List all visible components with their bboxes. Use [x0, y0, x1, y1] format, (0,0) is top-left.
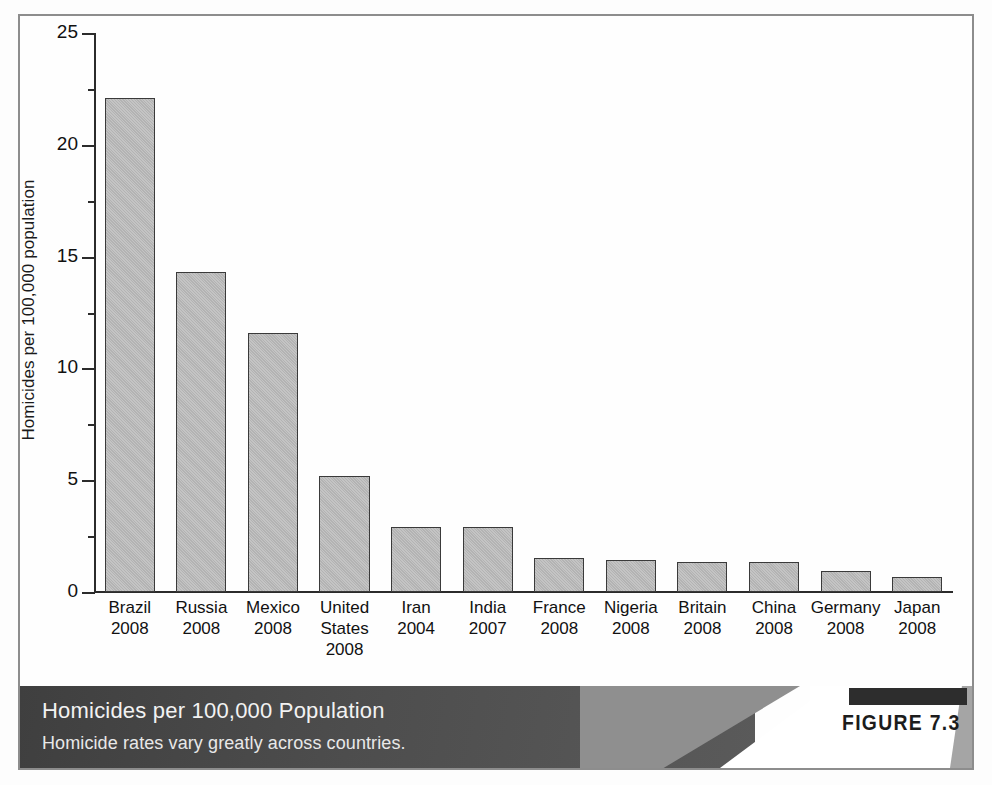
bar [677, 562, 727, 592]
x-axis-label: UnitedStates2008 [309, 597, 381, 660]
figure-caption-band: Homicides per 100,000 Population Homicid… [20, 686, 972, 768]
y-tick-0 [82, 592, 95, 594]
figure-number-badge: FIGURE 7.3 [842, 710, 956, 736]
bar [176, 272, 226, 592]
bar [105, 98, 155, 592]
x-axis-label: Iran2004 [380, 597, 452, 639]
x-axis-label: India2007 [452, 597, 524, 639]
bar [391, 527, 441, 592]
bar [463, 527, 513, 592]
x-axis-labels: Brazil2008Russia2008Mexico2008UnitedStat… [94, 597, 953, 677]
x-axis-label: Japan2008 [881, 597, 953, 639]
x-axis-label: Brazil2008 [94, 597, 166, 639]
x-axis-label: Germany2008 [810, 597, 882, 639]
x-axis-label: France2008 [524, 597, 596, 639]
y-tick-label: 5 [18, 468, 78, 490]
x-axis-label: China2008 [738, 597, 810, 639]
caption-title: Homicides per 100,000 Population [42, 698, 385, 724]
bar [821, 571, 871, 592]
bar [749, 562, 799, 592]
x-axis-label: Nigeria2008 [595, 597, 667, 639]
x-axis-label: Britain2008 [667, 597, 739, 639]
x-axis-label: Mexico2008 [237, 597, 309, 639]
bar [319, 476, 369, 592]
chart-plot-area: Homicides per 100,000 population 0510152… [0, 0, 992, 785]
y-tick-label: 15 [18, 245, 78, 267]
bar [248, 333, 298, 592]
y-tick-label: 0 [18, 580, 78, 602]
bar [892, 577, 942, 592]
bar-series [94, 33, 953, 592]
figure-badge-bar [849, 688, 967, 705]
x-axis-label: Russia2008 [166, 597, 238, 639]
figure-root: Homicides per 100,000 population 0510152… [0, 0, 992, 785]
bar [534, 558, 584, 592]
bar [606, 560, 656, 592]
y-tick-label: 25 [18, 21, 78, 43]
y-tick-label: 10 [18, 356, 78, 378]
y-tick-label: 20 [18, 133, 78, 155]
caption-subtitle: Homicide rates vary greatly across count… [42, 733, 406, 754]
